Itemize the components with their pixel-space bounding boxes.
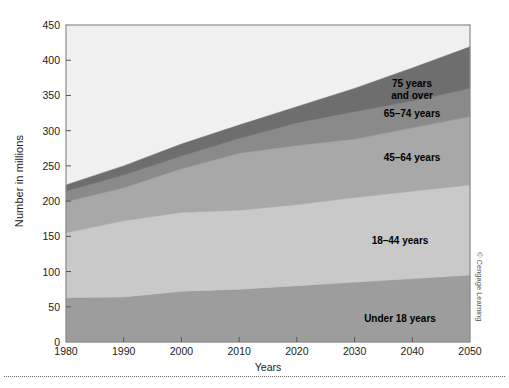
y-tick-label: 300 (30, 125, 60, 137)
x-tick-label: 2030 (343, 345, 366, 357)
x-tick-label: 2040 (401, 345, 424, 357)
y-tick-label: 250 (30, 160, 60, 172)
series-label-2: 45–64 years (352, 152, 472, 164)
y-tick-label: 50 (30, 301, 60, 313)
stacked-area-chart (0, 0, 509, 388)
series-label-1: 65–74 years (352, 108, 472, 120)
x-tick-label: 1980 (54, 345, 77, 357)
bottom-divider (4, 376, 505, 377)
chart-figure: 050100150200250300350400450 198019902000… (0, 0, 509, 388)
series-label-3: 18–44 years (340, 235, 460, 247)
x-tick-label: 2020 (285, 345, 308, 357)
y-axis-ticks: 050100150200250300350400450 (28, 0, 60, 388)
x-tick-label: 1990 (112, 345, 135, 357)
y-tick-label: 200 (30, 195, 60, 207)
y-axis-title: Number in millions (13, 101, 25, 261)
y-tick-label: 350 (30, 89, 60, 101)
copyright-credit: © Cengage Learning (475, 252, 484, 362)
x-tick-label: 2000 (170, 345, 193, 357)
x-axis-title: Years (66, 361, 470, 373)
x-tick-label: 2010 (227, 345, 250, 357)
y-tick-label: 150 (30, 230, 60, 242)
series-label-4: Under 18 years (340, 313, 460, 325)
series-label-0: 75 years and over (352, 78, 472, 102)
y-tick-label: 400 (30, 54, 60, 66)
y-tick-label: 450 (30, 19, 60, 31)
y-tick-label: 100 (30, 266, 60, 278)
